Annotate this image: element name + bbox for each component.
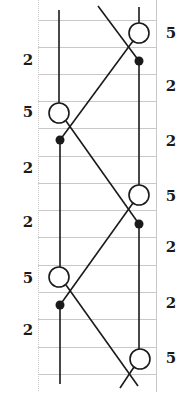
right-label: 5 [166,187,176,205]
diagonal-3 [60,203,133,305]
left-label: 2 [23,51,33,69]
right-label: 2 [166,77,176,95]
filled-dot [56,301,65,310]
diagonal-1 [60,41,133,140]
filled-dot [135,57,144,66]
left-label: 2 [23,213,33,231]
filled-dot [135,220,144,229]
filled-dot [56,136,65,145]
right-label: 5 [166,24,176,42]
right-label: 5 [166,349,176,367]
right-labels: 5225225 [166,24,176,367]
diagonal-4 [66,285,138,386]
strands [59,6,139,388]
open-circle [130,349,150,369]
braid-diagram: 252252 5225225 [0,0,188,399]
right-label: 2 [166,294,176,312]
left-label: 2 [23,321,33,339]
open-circle [49,267,69,287]
left-label: 2 [23,159,33,177]
left-labels: 252252 [23,51,33,339]
open-circle [129,23,149,43]
left-label: 5 [23,269,33,287]
right-label: 2 [166,132,176,150]
open-circle [129,185,149,205]
left-label: 5 [23,103,33,121]
right-label: 2 [166,238,176,256]
open-circle [49,103,69,123]
